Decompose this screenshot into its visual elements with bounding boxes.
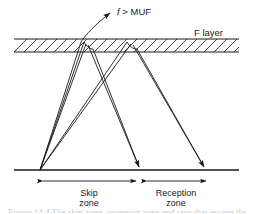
skip-zone-diagram: f > MUF F layer Skip zone Reception zone (0, 0, 254, 214)
ray-paths (40, 13, 204, 170)
skip-zone-label-line2: zone (79, 198, 99, 208)
escaping-ray-label: f > MUF (117, 6, 151, 17)
ray-reception-inner (40, 44, 204, 170)
f-layer-label: F layer (194, 27, 223, 38)
skip-zone-label-line1: Skip (80, 188, 98, 198)
ray-skip-inner (40, 44, 139, 170)
f-layer-band (14, 39, 247, 52)
figure-root: f > MUF F layer Skip zone Reception zone… (0, 0, 254, 214)
figure-caption-sliver: Figure 14.4 The skip zone, reception zon… (8, 208, 246, 213)
reception-zone-label-line2: zone (166, 198, 186, 208)
ray-skip-edge (40, 42, 139, 170)
muf-symbol: MUF (130, 6, 151, 17)
reception-zone-label-line1: Reception (156, 188, 197, 198)
relation-symbol: > (120, 6, 131, 17)
ray-reception-far (40, 42, 204, 170)
ray-escaping (40, 13, 110, 170)
